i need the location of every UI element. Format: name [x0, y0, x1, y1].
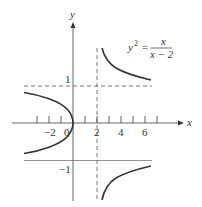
x-tick-label-6: 6 — [142, 126, 148, 138]
y-tick-label-neg1: −1 — [59, 163, 71, 175]
x-axis-label: x — [186, 116, 192, 128]
x-ticks — [37, 116, 157, 123]
y-tick-label-1: 1 — [65, 73, 71, 85]
x-tick-label-neg2: −2 — [44, 126, 56, 138]
y-axis-label: y — [69, 8, 75, 20]
x-tick-label-2: 2 — [94, 126, 100, 138]
equation-lhs: y — [127, 41, 133, 53]
equation-denominator: x − 2 — [149, 48, 174, 60]
equation-numerator: x — [160, 35, 166, 47]
curve-right-lower-branch — [102, 166, 151, 200]
equation-exponent: 2 — [134, 39, 138, 48]
equation-equals: = — [142, 41, 148, 53]
x-tick-label-0: 0 — [64, 126, 70, 138]
equation: y 2 = x x − 2 — [127, 35, 174, 60]
x-axis-arrow-icon — [178, 121, 184, 126]
x-tick-label-4: 4 — [118, 126, 124, 138]
graph: y x −2 0 2 4 6 1 −1 y 2 = x x − 2 — [0, 0, 202, 207]
y-axis-arrow-icon — [71, 22, 76, 28]
